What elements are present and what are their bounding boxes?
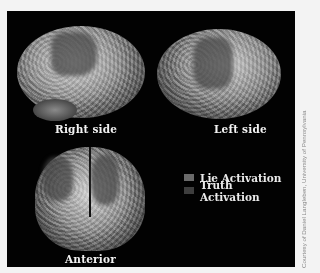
label-left-side: Left side: [214, 123, 267, 135]
legend-item-truth: Truth Activation: [184, 184, 295, 197]
activation-region: [43, 157, 73, 201]
activation-region: [193, 37, 233, 89]
cerebellum-right: [33, 99, 77, 121]
brain-anterior-image: [35, 147, 145, 251]
legend: Lie Activation Truth Activation: [184, 171, 295, 197]
photo-credit: Courtesy of Daniel Langleben, University…: [300, 110, 307, 268]
brain-left-side-image: [157, 29, 281, 119]
label-anterior: Anterior: [65, 253, 116, 265]
truth-swatch: [184, 187, 194, 194]
activation-region: [91, 155, 119, 205]
activation-region: [51, 32, 97, 76]
figure-panel: Right side Left side Anterior Lie Activa…: [7, 11, 295, 267]
lie-swatch: [184, 174, 194, 181]
label-right-side: Right side: [55, 123, 117, 135]
